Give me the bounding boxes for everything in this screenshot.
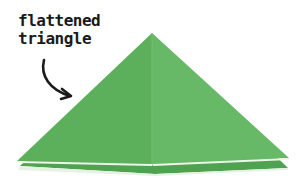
curved-arrow-icon (43, 60, 71, 99)
flattened-triangle (17, 33, 289, 166)
origami-illustration (0, 0, 299, 184)
